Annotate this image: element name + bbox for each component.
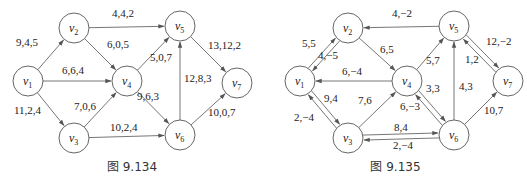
edge-v5-v2 xyxy=(364,26,439,27)
node-v4: v4 xyxy=(112,66,142,96)
network-graph-left: 9,4,56,6,411,2,44,4,26,0,57,0,610,2,45,0… xyxy=(0,0,264,183)
node-v7: v7 xyxy=(493,66,523,96)
edge-label: 4,4,2 xyxy=(112,7,134,19)
edge-label: 7,6 xyxy=(358,94,372,106)
edge-label: 6,0,5 xyxy=(107,38,130,50)
edge-label: 13,12,2 xyxy=(208,39,241,51)
edge-label: 3,3 xyxy=(426,82,440,94)
node-v3: v3 xyxy=(333,123,363,153)
network-graph-right: 5,54,−54,−26,56,−49,42,−47,65,73,36,−38,… xyxy=(264,0,527,183)
edge-label: 10,0,7 xyxy=(208,106,236,118)
edge-label: 9,4 xyxy=(324,92,338,104)
node-v4: v4 xyxy=(392,66,422,96)
edge-v4-v6 xyxy=(419,91,446,122)
edge-label: 11,2,4 xyxy=(14,104,42,116)
node-v7: v7 xyxy=(222,68,252,98)
node-v2: v2 xyxy=(333,13,363,43)
edge-v3-v6 xyxy=(89,135,164,137)
edge-label: 6,6,4 xyxy=(62,64,85,76)
node-v3: v3 xyxy=(59,123,89,153)
edge-v2-v5 xyxy=(89,26,164,27)
edge-label: 12,−2 xyxy=(486,35,511,47)
node-v5: v5 xyxy=(165,11,195,41)
edge-label: 9,6,3 xyxy=(137,90,160,102)
edge-label: 2,−4 xyxy=(393,139,413,151)
edge-label: 5,7 xyxy=(426,54,440,66)
figure-9-135: 5,54,−54,−26,56,−49,42,−47,65,73,36,−38,… xyxy=(264,0,527,183)
edge-label: 8,4 xyxy=(394,121,408,133)
edge-label: 12,8,3 xyxy=(184,72,212,84)
node-v1: v1 xyxy=(285,66,315,96)
edge-label: 9,4,5 xyxy=(16,36,39,48)
edge-label: 5,5 xyxy=(302,37,316,49)
edge-label: 6,5 xyxy=(380,43,394,55)
edge-label: 6,−4 xyxy=(342,65,362,77)
figure-caption: 图 9.134 xyxy=(0,157,264,174)
edge-label: 7,0,6 xyxy=(74,100,97,112)
edge-v3-v6 xyxy=(363,133,438,135)
edge-label: 10,2,4 xyxy=(110,121,138,133)
edge-label: 10,7 xyxy=(484,104,504,116)
figure-caption: 图 9.135 xyxy=(264,157,527,174)
node-v1: v1 xyxy=(13,66,43,96)
node-v5: v5 xyxy=(439,11,469,41)
figure-9-134: 9,4,56,6,411,2,44,4,26,0,57,0,610,2,45,0… xyxy=(0,0,264,183)
edge-label: 1,2 xyxy=(465,53,479,65)
node-v6: v6 xyxy=(439,120,469,150)
edge-label: 6,−3 xyxy=(400,100,420,112)
edge-label: 4,−5 xyxy=(318,49,338,61)
node-v2: v2 xyxy=(59,13,89,43)
edge-label: 5,0,7 xyxy=(150,51,173,63)
edge-label: 4,−2 xyxy=(392,7,412,19)
edge-label: 4,3 xyxy=(459,80,473,92)
edge-v1-v2 xyxy=(38,40,64,70)
edge-v1-v3 xyxy=(37,93,64,126)
edge-label: 2,−4 xyxy=(294,111,314,123)
node-v6: v6 xyxy=(165,120,195,150)
